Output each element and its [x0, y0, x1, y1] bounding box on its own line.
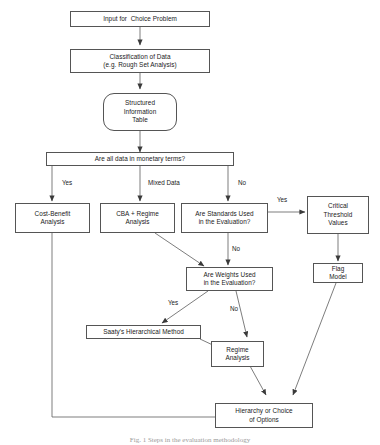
node-critical-line-1: Threshold: [324, 211, 353, 219]
node-hierarchy-or-choice-of-options[interactable]: Hierarchy or Choice of Options: [215, 403, 313, 428]
node-hierarchy-line-1: of Options: [249, 416, 279, 424]
node-input[interactable]: Input for Choice Problem: [70, 11, 210, 27]
node-cba-regime-line-0: CBA + Regime: [116, 210, 159, 218]
edge-regime-to-hierarchy: [250, 366, 266, 395]
node-monetary-line-0: Are all data in monetary terms?: [95, 155, 185, 163]
node-monetary-terms-decision[interactable]: Are all data in monetary terms?: [46, 152, 234, 166]
node-regime-analysis[interactable]: Regime Analysis: [211, 341, 264, 367]
node-flag-line-1: Model: [329, 273, 347, 281]
edge-weights-to-saaty: [162, 291, 208, 323]
edge-weights-to-regime: [236, 291, 247, 337]
figure-caption: Fig. 1 Steps in the evaluation methodolo…: [0, 436, 380, 444]
node-weights-line-1: in the Evaluation?: [204, 279, 256, 287]
edge-label-yes-weights: Yes: [168, 299, 178, 306]
node-regime-line-0: Regime: [226, 346, 248, 354]
node-standards-decision[interactable]: Are Standards Used in the Evaluation?: [181, 203, 268, 233]
node-input-line-0: Input for Choice Problem: [103, 15, 177, 23]
node-saatys-hierarchical-method[interactable]: Saaty's Hierarchical Method: [86, 325, 201, 339]
node-classification-line-0: Classification of Data: [109, 53, 170, 61]
node-saaty-line-0: Saaty's Hierarchical Method: [103, 328, 184, 336]
node-cost-benefit-line-1: Analysis: [40, 218, 64, 226]
node-weights-line-0: Are Weights Used: [203, 271, 255, 279]
node-standards-line-1: in the Evaluation?: [199, 218, 251, 226]
node-cba-regime-line-1: Analysis: [125, 218, 149, 226]
edge-label-no-standards: No: [232, 245, 240, 252]
node-cba-regime-analysis[interactable]: CBA + Regime Analysis: [100, 203, 175, 233]
node-weights-decision[interactable]: Are Weights Used in the Evaluation?: [186, 267, 273, 291]
node-classification[interactable]: Classification of Data (e.g. Rough Set A…: [70, 49, 210, 73]
node-regime-line-1: Analysis: [225, 354, 249, 362]
edge-label-mixed-data: Mixed Data: [148, 179, 180, 186]
node-flag-model[interactable]: Flag Model: [313, 263, 363, 283]
edge-label-no-monetary: No: [238, 179, 246, 186]
edge-label-yes-standards: Yes: [277, 196, 287, 203]
node-structured-line-0: Structured: [125, 99, 155, 107]
edge-label-yes-monetary: Yes: [62, 179, 72, 186]
node-flag-line-0: Flag: [332, 265, 345, 273]
node-critical-line-2: Values: [328, 219, 347, 227]
node-hierarchy-line-0: Hierarchy or Choice: [235, 407, 292, 415]
node-standards-line-0: Are Standards Used: [195, 210, 253, 218]
node-classification-line-1: (e.g. Rough Set Analysis): [103, 61, 176, 69]
edge-cbaregime-to-weights: [155, 233, 204, 266]
node-critical-threshold-values[interactable]: Critical Threshold Values: [307, 196, 369, 234]
flowchart-canvas: Input for Choice Problem Classification …: [0, 0, 380, 445]
node-structured-line-1: Information: [124, 108, 157, 116]
edge-flag-to-hierarchy: [293, 283, 336, 395]
node-structured-information-table[interactable]: Structured Information Table: [103, 93, 177, 131]
node-cost-benefit-line-0: Cost-Benefit: [35, 210, 71, 218]
node-cost-benefit-analysis[interactable]: Cost-Benefit Analysis: [15, 203, 90, 233]
node-structured-line-2: Table: [132, 116, 148, 124]
node-critical-line-0: Critical: [328, 202, 348, 210]
edge-label-no-weights: No: [230, 305, 238, 312]
